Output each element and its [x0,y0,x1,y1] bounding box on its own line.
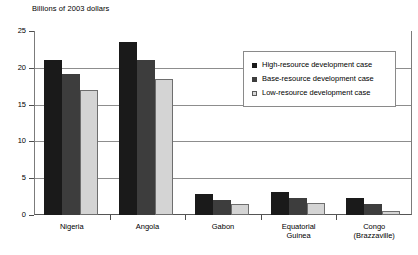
bar [155,79,173,215]
y-axis-tick-label: 10 [0,138,26,146]
bar [62,74,80,215]
y-axis-tick-label: 15 [0,101,26,109]
bar [382,211,400,215]
x-axis-category-label: Congo (Brazzaville) [336,222,412,240]
bar [119,42,137,215]
x-axis-category-label: Equatorial Guinea [261,222,337,240]
legend-swatch-icon-base [252,77,257,82]
x-axis-category-label: Nigeria [34,222,110,231]
y-axis-tick-label: 5 [0,174,26,182]
x-axis-category-label: Gabon [185,222,261,231]
y-axis-tick-label: 20 [0,64,26,72]
legend-item-low: Low-resource development case [252,86,395,100]
bar [231,204,249,215]
bar [346,198,364,215]
chart-axis-title: Billions of 2003 dollars [32,4,109,13]
bar [213,200,231,215]
legend-label-high: High-resource development case [262,61,372,69]
bar [289,198,307,215]
bar [307,203,325,216]
bar [271,192,289,215]
y-axis-tick-mark [29,178,34,179]
bar [44,60,62,215]
y-axis-tick-mark [29,31,34,32]
x-axis-tick-mark [110,215,111,220]
bar-chart: Billions of 2003 dollars 0510152025 Nige… [0,0,418,255]
y-axis-tick-mark [29,68,34,69]
legend-item-high: High-resource development case [252,58,395,72]
bar [195,194,213,215]
legend-label-base: Base-resource development case [262,75,374,83]
legend: High-resource development case Base-reso… [243,51,396,107]
y-axis-tick-mark [29,105,34,106]
bar [364,204,382,215]
legend-swatch-icon-low [252,91,257,96]
bar [80,90,98,215]
x-axis-tick-mark [336,215,337,220]
y-axis-tick-label: 25 [0,27,26,35]
x-axis-tick-mark [185,215,186,220]
x-axis-category-label: Angola [110,222,186,231]
legend-swatch-icon-high [252,63,257,68]
x-axis-tick-mark [261,215,262,220]
y-axis-tick-mark [29,215,34,216]
y-axis-tick-mark [29,141,34,142]
y-axis-tick-label: 0 [0,211,26,219]
bar [137,60,155,215]
legend-label-low: Low-resource development case [262,89,370,97]
legend-item-base: Base-resource development case [252,72,395,86]
